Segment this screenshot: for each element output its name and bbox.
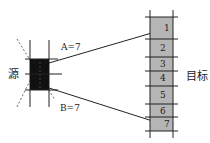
target-cell-1: 1 [164, 24, 170, 33]
target-cell-6: 6 [160, 107, 166, 116]
target-label: 目标 [186, 71, 208, 82]
target-cell-4: 4 [160, 74, 166, 83]
target-cell-2: 2 [160, 44, 166, 53]
angle-b-label: B=7 [60, 104, 80, 113]
source-label: 源 [8, 69, 19, 80]
diagram-canvas [0, 0, 210, 143]
angle-a-label: A=7 [61, 43, 81, 52]
target-cell-5: 5 [160, 91, 166, 100]
target-cell-3: 3 [160, 60, 166, 69]
target-cell-7: 7 [164, 120, 170, 129]
